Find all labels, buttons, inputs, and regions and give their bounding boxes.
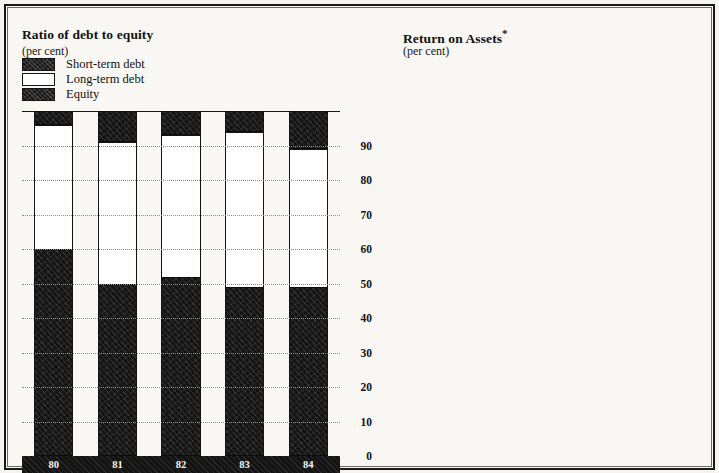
x-axis-tick-label: 82 [167,459,195,470]
panel-return-on-assets: Return on Assets* (per cent) 02468101214… [371,8,711,466]
gridline [22,353,340,354]
bar-segment-short-term-debt [225,111,264,132]
y-axis-tick-label: 10 [346,416,372,428]
x-axis-tick-label: 83 [231,459,259,470]
y-axis-tick-label: 40 [346,312,372,324]
gridline [22,318,340,319]
legend-item-short-term-debt: Short-term debt [22,57,145,72]
figure-inner-border: Ratio of debt to equity (per cent) Short… [7,7,712,467]
legend-label-equity: Equity [66,87,99,102]
y-axis-tick-label: 60 [346,243,372,255]
right-chart-title-footnote-marker: * [502,27,508,39]
y-axis-tick-label: 0 [346,450,372,462]
left-chart-legend: Short-term debt Long-term debt Equity [22,57,145,102]
gridline [22,387,340,388]
bar-segment-equity [225,287,264,456]
gridline [22,180,340,181]
x-axis-tick-label: 84 [294,459,322,470]
y-axis-tick-label: 70 [346,209,372,221]
x-axis-tick-label: 80 [40,459,68,470]
gridline [22,146,340,147]
bar-segment-equity [98,284,137,457]
bar-segment-short-term-debt [289,111,328,149]
bar-segment-long-term-debt [98,142,137,283]
legend-label-short-term-debt: Short-term debt [66,57,145,72]
gridline [22,215,340,216]
x-axis-tick-label: 81 [103,459,131,470]
bar-segment-long-term-debt [289,149,328,287]
y-axis-tick-label: 50 [346,278,372,290]
figure-page: Ratio of debt to equity (per cent) Short… [0,0,719,473]
right-chart-subtitle: (per cent) [403,44,449,59]
panel-ratio-of-debt-to-equity: Ratio of debt to equity (per cent) Short… [8,8,371,466]
y-axis-tick-label: 90 [346,140,372,152]
legend-swatch-long-term-debt [22,73,55,86]
gridline [22,284,340,285]
y-axis-tick-label: 30 [346,347,372,359]
left-chart-plot-area: 0102030405060708090 [22,111,340,456]
left-chart-title: Ratio of debt to equity [22,27,153,43]
legend-item-equity: Equity [22,87,145,102]
legend-item-long-term-debt: Long-term debt [22,72,145,87]
legend-swatch-short-term-debt [22,58,55,71]
bar-segment-short-term-debt [161,111,200,135]
legend-swatch-equity [22,88,55,101]
gridline [22,249,340,250]
bar-segment-short-term-debt [34,111,73,125]
bar-segment-equity [161,277,200,456]
left-chart-axis-band: 8081828384 [22,456,340,473]
legend-label-long-term-debt: Long-term debt [66,72,144,87]
bar-segment-equity [289,287,328,456]
gridline [22,422,340,423]
bar-segment-long-term-debt [225,132,264,287]
y-axis-tick-label: 80 [346,174,372,186]
y-axis-tick-label: 20 [346,381,372,393]
bar-segment-long-term-debt [34,125,73,249]
bar-segment-short-term-debt [98,111,137,142]
bar-segment-long-term-debt [161,135,200,276]
